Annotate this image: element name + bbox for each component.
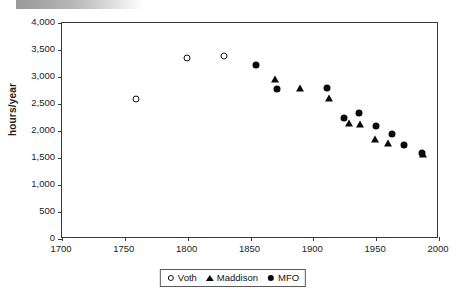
data-point-maddison: [384, 139, 392, 146]
data-point-maddison: [345, 119, 353, 126]
plot-area: [61, 22, 438, 238]
chart-legend: VothMaddisonMFO: [160, 269, 306, 287]
data-point-mfo: [418, 150, 425, 157]
data-point-maddison: [296, 85, 304, 92]
data-point-mfo: [324, 85, 331, 92]
x-tick-label: 1700: [50, 244, 71, 254]
x-tick-label: 2000: [427, 244, 448, 254]
y-tick-label: 2,500: [31, 98, 55, 108]
data-point-voth: [221, 53, 228, 60]
data-point-mfo: [401, 142, 408, 149]
x-tick-label: 1950: [365, 244, 386, 254]
data-point-mfo: [274, 85, 281, 92]
x-tick-label: 1850: [239, 244, 260, 254]
x-axis-tick-labels: 1700175018001850190019502000: [61, 244, 438, 258]
y-tick-label: 0: [50, 233, 55, 243]
x-tick-label: 1900: [302, 244, 323, 254]
y-tick-label: 500: [39, 206, 55, 216]
data-point-mfo: [388, 131, 395, 138]
scatter-chart: hours/year 05001,0001,5002,0002,5003,000…: [0, 0, 466, 298]
x-tick-label: 1800: [176, 244, 197, 254]
y-axis-tick-labels: 05001,0001,5002,0002,5003,0003,5004,000: [0, 22, 55, 238]
x-tick-mark: [439, 237, 440, 241]
y-tick-label: 4,000: [31, 17, 55, 27]
data-point-mfo: [252, 62, 259, 69]
data-point-maddison: [271, 75, 279, 82]
y-tick-label: 1,500: [31, 152, 55, 162]
data-point-mfo: [355, 110, 362, 117]
legend-marker-icon: [267, 274, 275, 282]
data-point-maddison: [371, 136, 379, 143]
data-point-voth: [133, 95, 140, 102]
legend-label: MFO: [278, 272, 299, 283]
legend-label: Voth: [178, 272, 197, 283]
data-point-mfo: [340, 114, 347, 121]
y-tick-label: 3,000: [31, 71, 55, 81]
legend-entry-maddison: Maddison: [206, 272, 258, 283]
legend-entry-voth: Voth: [167, 272, 197, 283]
y-tick-label: 3,500: [31, 44, 55, 54]
y-tick-label: 1,000: [31, 179, 55, 189]
data-point-maddison: [325, 95, 333, 102]
data-point-voth: [183, 55, 190, 62]
legend-entry-mfo: MFO: [267, 272, 299, 283]
legend-marker-icon: [167, 274, 175, 282]
legend-label: Maddison: [217, 272, 258, 283]
data-point-maddison: [356, 121, 364, 128]
legend-marker-icon: [206, 274, 214, 282]
x-tick-label: 1750: [113, 244, 134, 254]
y-tick-label: 2,000: [31, 125, 55, 135]
data-point-mfo: [373, 122, 380, 129]
